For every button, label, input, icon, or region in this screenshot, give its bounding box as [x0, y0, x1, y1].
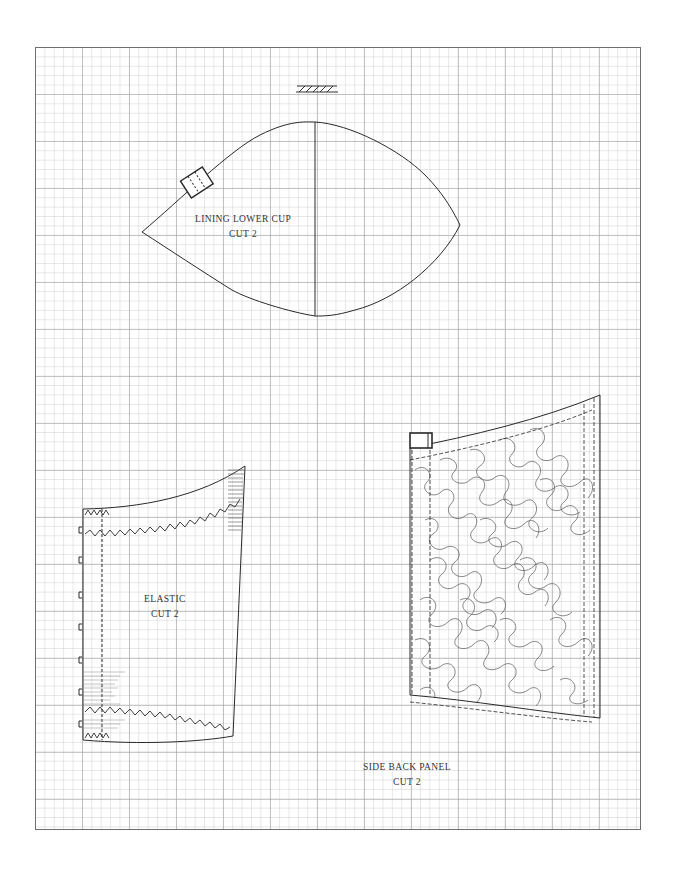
lining-lower-cup-label: LINING LOWER CUP CUT 2: [195, 212, 291, 242]
cut-count: CUT 2: [195, 227, 291, 242]
piece-name: LINING LOWER CUP: [195, 212, 291, 227]
elastic-label: ELASTIC CUT 2: [144, 592, 186, 622]
pattern-drawing: [0, 0, 675, 872]
side-back-panel-piece: [410, 395, 600, 738]
lining-lower-cup-piece: [142, 122, 460, 316]
hatched-grainline-icon: [296, 86, 338, 92]
side-back-panel-label: SIDE BACK PANEL CUT 2: [363, 760, 451, 790]
cut-count: CUT 2: [363, 775, 451, 790]
piece-name: SIDE BACK PANEL: [363, 760, 451, 775]
cut-count: CUT 2: [144, 607, 186, 622]
piece-name: ELASTIC: [144, 592, 186, 607]
